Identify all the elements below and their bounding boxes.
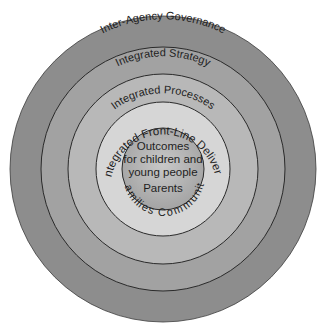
core-label-parents: Parents <box>143 182 183 194</box>
core-line-outcomes: Outcomes <box>137 140 190 152</box>
integrated-working-diagram: Inter-Agency Governance Integrated Strat… <box>0 0 326 334</box>
core-line-young-people: young people <box>128 166 197 178</box>
core-line-for-children: for children and <box>123 153 202 165</box>
